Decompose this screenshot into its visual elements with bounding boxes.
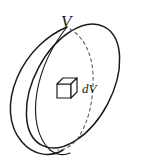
- volume-element-figure: V dV: [0, 0, 144, 164]
- volume-label: V: [61, 12, 74, 31]
- volume-element-label: dV: [82, 81, 99, 96]
- cube-front-face: [57, 84, 71, 98]
- cube-volume-element: [57, 78, 77, 98]
- figure-canvas: V dV: [0, 0, 144, 164]
